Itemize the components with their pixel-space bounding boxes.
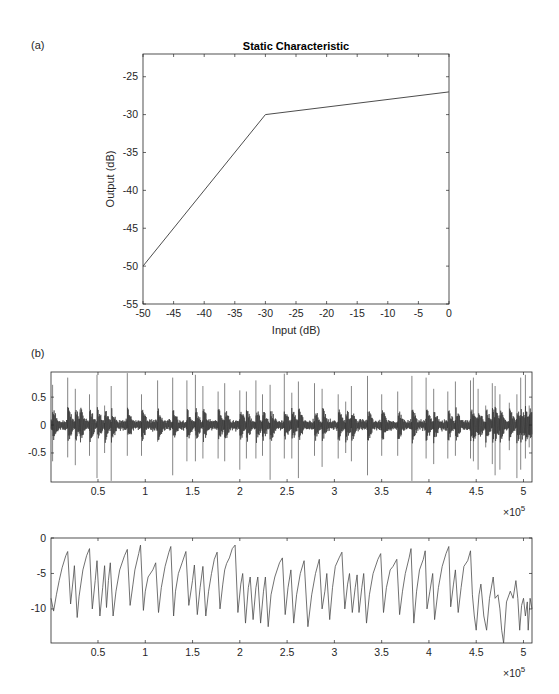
x-tick-label: 4 [426, 485, 432, 497]
x-tick-label: 2.5 [280, 646, 295, 658]
x-tick-label: 2 [237, 646, 243, 658]
x-tick-label: 5 [521, 646, 527, 658]
y-tick-label: -55 [123, 298, 138, 310]
gain-signal-chart: 0.511.522.533.544.55 -10-50 ×105 [31, 532, 532, 680]
x-tick-label: 1 [142, 485, 148, 497]
x-tick-label: -30 [258, 307, 273, 319]
x-tick-label: 0.5 [91, 646, 106, 658]
x-tick-label: 5 [521, 485, 527, 497]
y-tick-label: 0.5 [31, 391, 46, 403]
x-tick-label: 3.5 [374, 485, 389, 497]
x-tick-label: -45 [166, 307, 181, 319]
x-tick-label: 1.5 [185, 646, 200, 658]
plot-area [143, 54, 449, 304]
input-signal-chart: 0.511.522.533.544.55 -0.500.5 ×105 [28, 372, 532, 518]
y-tick-label: -10 [31, 602, 46, 614]
x-tick-label: -20 [319, 307, 334, 319]
x-tick-label: 2.5 [280, 485, 295, 497]
y-tick-label: 0 [40, 532, 46, 544]
x-tick-label: -40 [197, 307, 212, 319]
chart-title: Static Characteristic [243, 40, 349, 52]
figure-canvas: Static Characteristic -50-45-40-35-30-25… [0, 0, 559, 694]
x-tick-label: -15 [350, 307, 365, 319]
x-tick-label: 1 [142, 646, 148, 658]
x-tick-label: -25 [288, 307, 303, 319]
x-tick-label: -10 [380, 307, 395, 319]
x-axis-multiplier: ×105 [503, 504, 526, 518]
x-tick-label: 4.5 [469, 485, 484, 497]
x-tick-label: 0 [446, 307, 452, 319]
x-tick-label: 4 [426, 646, 432, 658]
x-tick-label: 1.5 [185, 485, 200, 497]
static-characteristic-chart: Static Characteristic -50-45-40-35-30-25… [104, 40, 452, 336]
x-tick-label: 0.5 [91, 485, 106, 497]
x-tick-label: -5 [414, 307, 423, 319]
y-tick-label: -0.5 [28, 446, 46, 458]
x-tick-label: 2 [237, 485, 243, 497]
y-tick-label: -50 [123, 260, 138, 272]
x-tick-label: 3.5 [374, 646, 389, 658]
x-tick-label: 3 [331, 485, 337, 497]
y-tick-label: 0 [40, 419, 46, 431]
y-tick-label: -45 [123, 222, 138, 234]
y-tick-label: -30 [123, 108, 138, 120]
plot-area [51, 538, 532, 643]
x-axis-multiplier: ×105 [503, 665, 526, 679]
y-axis-title: Output (dB) [104, 151, 116, 208]
x-tick-label: 4.5 [469, 646, 484, 658]
y-tick-label: -35 [123, 146, 138, 158]
y-tick-label: -5 [37, 567, 46, 579]
x-tick-label: 3 [331, 646, 337, 658]
x-tick-label: -35 [227, 307, 242, 319]
y-tick-label: -25 [123, 70, 138, 82]
x-axis-title: Input (dB) [272, 324, 320, 336]
y-tick-label: -40 [123, 184, 138, 196]
